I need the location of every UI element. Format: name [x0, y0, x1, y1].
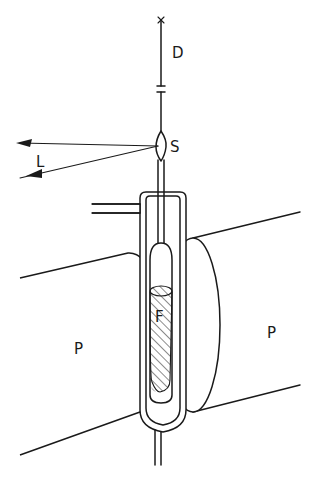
label-s: S	[170, 138, 180, 156]
label-p-left: P	[74, 340, 83, 358]
label-d: D	[172, 44, 184, 62]
label-f: F	[155, 308, 164, 326]
apparatus-diagram: D S L F P P	[0, 0, 319, 485]
label-l: L	[36, 153, 45, 171]
pole-piece-left	[20, 253, 157, 455]
arrow-outgoing-icon	[16, 139, 32, 147]
label-p-right: P	[267, 324, 276, 342]
